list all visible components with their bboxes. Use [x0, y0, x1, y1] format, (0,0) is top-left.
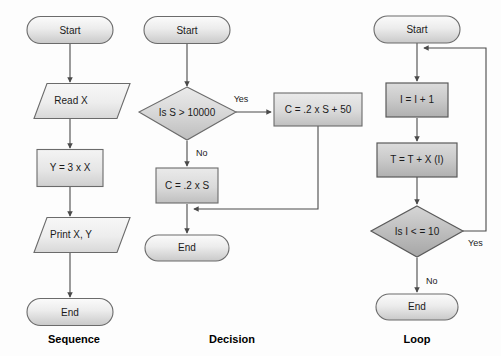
- node-label: Y = 3 x X: [50, 162, 91, 173]
- node-label: Start: [59, 25, 80, 36]
- node-dec-no-process[interactable]: C = .2 x S: [156, 168, 218, 203]
- node-label: Print X, Y: [50, 229, 92, 240]
- node-label: Is I < = 10: [395, 226, 440, 237]
- node-seq-end[interactable]: End: [27, 299, 113, 326]
- node-seq-read[interactable]: Read X: [34, 84, 130, 119]
- edge-label-dec-no: No: [196, 148, 208, 158]
- node-loop-test[interactable]: Is I < = 10: [371, 206, 463, 257]
- node-seq-print[interactable]: Print X, Y: [34, 218, 130, 253]
- node-label: C = .2 x S: [165, 180, 210, 191]
- edge-label-loop-no: No: [426, 276, 438, 286]
- node-dec-end[interactable]: End: [145, 235, 229, 261]
- node-label: Start: [176, 25, 197, 36]
- node-label: C = .2 x S + 50: [285, 104, 352, 115]
- caption-loop: Loop: [404, 333, 431, 345]
- flowchart-canvas: Start Read X Y = 3 x X Print X, Y End: [0, 0, 501, 356]
- node-dec-test[interactable]: Is S > 10000: [139, 87, 236, 140]
- node-label: Start: [406, 24, 427, 35]
- column-sequence: Start Read X Y = 3 x X Print X, Y End: [27, 17, 130, 346]
- column-loop: Start I = I + 1 T = T + X (I) Is I < = 1…: [371, 16, 486, 345]
- node-dec-yes-process[interactable]: C = .2 x S + 50: [274, 93, 362, 126]
- connector-loop-back: [424, 48, 486, 231]
- node-seq-assign[interactable]: Y = 3 x X: [37, 150, 103, 187]
- caption-decision: Decision: [209, 333, 255, 345]
- node-loop-start[interactable]: Start: [374, 16, 460, 43]
- caption-sequence: Sequence: [48, 333, 100, 345]
- node-loop-incr[interactable]: I = I + 1: [386, 83, 448, 117]
- node-label: End: [61, 307, 79, 318]
- node-loop-sum[interactable]: T = T + X (I): [377, 143, 457, 177]
- node-label: T = T + X (I): [390, 154, 443, 165]
- node-label: Read X: [54, 95, 88, 106]
- node-label: I = I + 1: [400, 94, 434, 105]
- node-label: Is S > 10000: [159, 107, 216, 118]
- node-loop-end[interactable]: End: [376, 294, 458, 320]
- flowchart-figure: Start Read X Y = 3 x X Print X, Y End: [0, 0, 501, 356]
- node-dec-start[interactable]: Start: [144, 17, 230, 44]
- node-label: End: [408, 301, 426, 312]
- edge-label-loop-yes: Yes: [468, 238, 483, 248]
- node-seq-start[interactable]: Start: [27, 17, 113, 44]
- column-decision: Start Is S > 10000 C = .2 x S + 50 C = .…: [139, 17, 362, 346]
- node-label: End: [178, 242, 196, 253]
- edge-label-dec-yes: Yes: [234, 94, 249, 104]
